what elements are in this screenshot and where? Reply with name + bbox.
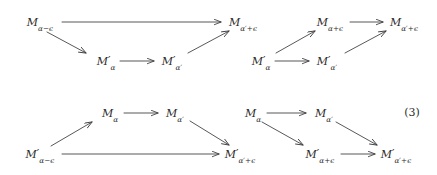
arrow-t5-t7 xyxy=(276,31,315,53)
node-b3: Mα′ xyxy=(166,108,184,119)
node-t7: Mα+ϵ xyxy=(317,17,344,28)
node-t8: Mα′+ϵ xyxy=(390,17,418,28)
node-b5: Mα xyxy=(245,108,261,119)
arrow-t6-t8 xyxy=(345,31,386,53)
arrow-b5-b7 xyxy=(262,122,303,145)
equation-number: (3) xyxy=(404,106,420,119)
arrow-t3-t4 xyxy=(188,31,229,53)
node-b8: M′α′+ϵ xyxy=(381,149,412,160)
node-b1: M′α−ϵ xyxy=(26,149,55,160)
arrow-t1-t2 xyxy=(47,32,86,53)
node-b4: M′α′+ϵ xyxy=(225,149,256,160)
arrow-b6-b8 xyxy=(336,122,377,145)
node-b6: Mα′ xyxy=(315,108,333,119)
diagram-arrows xyxy=(0,0,437,175)
node-t3: M′α′ xyxy=(162,56,182,67)
arrow-b3-b4 xyxy=(190,121,229,145)
node-t4: Mα′+ϵ xyxy=(229,17,257,28)
figure-canvas: Mα−ϵ M′α M′α′ Mα′+ϵ M′α M′α′ Mα+ϵ Mα′+ϵ … xyxy=(0,0,437,175)
node-b7: M′α+ϵ xyxy=(306,149,335,160)
node-t6: M′α′ xyxy=(317,56,337,67)
node-t1: Mα−ϵ xyxy=(27,17,54,28)
node-t5: M′α xyxy=(252,56,271,67)
arrow-b1-b2 xyxy=(51,122,92,146)
node-t2: M′α xyxy=(97,56,116,67)
node-b2: Mα xyxy=(102,108,118,119)
